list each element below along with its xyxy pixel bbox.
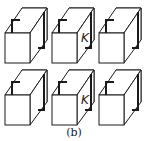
cube-cell-r1-c0	[5, 70, 47, 125]
cube-cell-r0-c0	[5, 8, 47, 63]
cube-cell-r1-c1: K	[52, 70, 94, 125]
k-label: K	[81, 93, 90, 107]
figure-caption: (b)	[0, 126, 148, 139]
cube-loop-figure: K K	[0, 0, 148, 141]
cube-cell-r0-c1: K	[52, 8, 94, 63]
cube-cell-r1-c2	[99, 70, 141, 125]
k-label: K	[81, 31, 90, 45]
cube-cell-r0-c2	[99, 8, 141, 63]
